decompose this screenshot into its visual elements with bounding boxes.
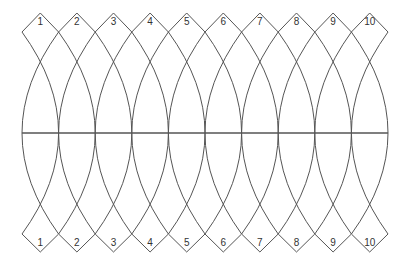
gore-label-top: 3 — [111, 16, 117, 27]
gore-label-top: 2 — [74, 16, 80, 27]
gore-label-bottom: 2 — [74, 237, 80, 248]
gore-label-bottom: 1 — [38, 237, 44, 248]
gore-label-top: 8 — [294, 16, 300, 27]
gore-label-top: 9 — [330, 16, 336, 27]
bottom-gore-labels: 12345678910 — [38, 237, 376, 248]
gore-label-bottom: 3 — [111, 237, 117, 248]
gore-label-top: 5 — [184, 16, 190, 27]
gore-label-top: 6 — [221, 16, 227, 27]
gore-label-top: 10 — [364, 16, 376, 27]
gore-label-top: 1 — [38, 16, 44, 27]
gore-label-top: 7 — [257, 16, 263, 27]
gore-label-bottom: 6 — [221, 237, 227, 248]
gore-label-bottom: 8 — [294, 237, 300, 248]
gore-label-bottom: 5 — [184, 237, 190, 248]
gore-label-bottom: 9 — [330, 237, 336, 248]
gore-label-bottom: 4 — [147, 237, 153, 248]
globe-gores-diagram: 12345678910 12345678910 — [0, 0, 409, 268]
gore-label-bottom: 7 — [257, 237, 263, 248]
gore-label-bottom: 10 — [364, 237, 376, 248]
gore-label-top: 4 — [147, 16, 153, 27]
